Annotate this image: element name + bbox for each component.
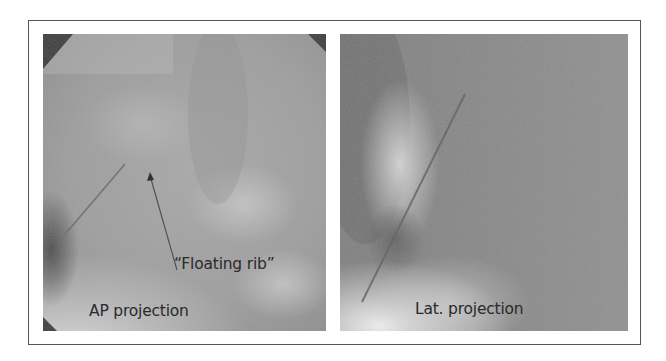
lateral-projection-label: Lat. projection bbox=[415, 300, 523, 318]
ap-projection-image: “Floating rib” AP projection bbox=[43, 34, 326, 331]
lateral-projection-image: Lat. projection bbox=[340, 34, 628, 331]
ap-projection-label: AP projection bbox=[89, 302, 189, 320]
ap-xray-graphic bbox=[43, 34, 326, 331]
lateral-xray-graphic bbox=[340, 34, 628, 331]
floating-rib-annotation: “Floating rib” bbox=[174, 255, 274, 273]
